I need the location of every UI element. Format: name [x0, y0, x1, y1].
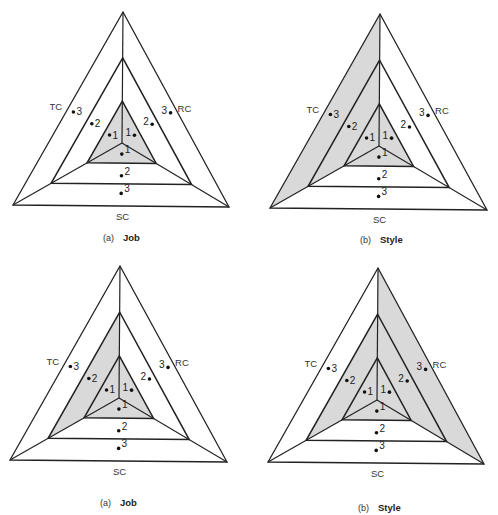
tc-level-dot	[69, 365, 73, 369]
tc-level-dot	[363, 390, 367, 394]
rc-level-number: 3	[419, 107, 425, 118]
sc-level-number: 1	[382, 147, 388, 158]
sc-level-number: 1	[380, 401, 386, 412]
rc-level-dot	[150, 122, 154, 126]
tc-level-dot	[108, 133, 112, 137]
tc-level-number: 2	[352, 121, 358, 132]
tc-axis-label: TC	[306, 104, 319, 115]
rc-level-dot	[390, 136, 394, 140]
tc-level-number: 2	[350, 375, 356, 386]
rc-level-dot	[169, 111, 173, 115]
caption-letter: (b)	[360, 235, 371, 245]
tc-axis-label: TC	[304, 358, 317, 369]
rc-level-number: 3	[162, 105, 168, 116]
rc-level-number: 3	[417, 361, 423, 372]
sc-level-number: 2	[124, 166, 130, 177]
rc-level-dot	[388, 390, 392, 394]
triangle-panel-top-right: 111222333TCRCSC(b)Style	[270, 14, 487, 245]
tc-level-dot	[347, 125, 351, 129]
tc-level-number: 1	[113, 130, 119, 141]
diagram-canvas: 111222333TCRCSC(a)Job111222333TCRCSC(b)S…	[0, 0, 498, 515]
sc-level-number: 3	[379, 440, 385, 451]
sc-axis-label: SC	[371, 468, 384, 479]
tc-level-number: 2	[92, 373, 98, 384]
triangle-panel-bottom-left: 111222333TCRCSC(a)Job	[10, 266, 227, 508]
rc-level-number: 3	[159, 359, 165, 370]
tc-level-number: 2	[95, 118, 101, 129]
triangle-panel-top-left: 111222333TCRCSC(a)Job	[13, 12, 229, 243]
sc-axis-label: SC	[373, 214, 386, 225]
tc-level-number: 1	[110, 384, 116, 395]
sc-level-dot	[374, 449, 378, 453]
tc-axis-label: TC	[46, 356, 59, 367]
caption-title: Style	[378, 502, 401, 513]
sc-level-number: 1	[122, 399, 128, 410]
sc-level-dot	[119, 192, 123, 196]
sc-level-dot	[375, 409, 379, 413]
caption-letter: (b)	[358, 503, 369, 513]
tc-level-number: 3	[331, 363, 337, 374]
caption-letter: (a)	[103, 233, 114, 243]
caption-title: Job	[123, 232, 140, 243]
rc-level-dot	[133, 133, 137, 137]
sc-level-dot	[117, 447, 121, 451]
spoke-line	[13, 143, 122, 205]
sc-level-number: 2	[379, 423, 385, 434]
rc-level-dot	[130, 388, 134, 392]
spoke-line	[122, 143, 229, 207]
rc-level-dot	[166, 366, 170, 370]
sc-level-number: 2	[382, 169, 388, 180]
sc-level-dot	[377, 155, 381, 159]
tc-level-dot	[90, 122, 94, 126]
tc-level-dot	[329, 113, 333, 117]
sc-axis-label: SC	[113, 466, 126, 477]
caption-title: Job	[120, 497, 137, 508]
rc-level-number: 2	[398, 373, 404, 384]
spoke-line	[119, 398, 227, 462]
rc-level-number: 2	[400, 119, 406, 130]
rc-level-number: 1	[383, 130, 389, 141]
sc-level-number: 3	[122, 438, 128, 449]
spoke-line	[10, 398, 119, 460]
tc-axis-label: TC	[49, 101, 62, 112]
sc-level-dot	[120, 174, 124, 178]
triangle-panel-bottom-right: 111222333TCRCSC(b)Style	[268, 268, 484, 513]
rc-level-dot	[148, 377, 152, 381]
tc-level-dot	[72, 110, 76, 114]
tc-level-number: 3	[73, 361, 79, 372]
sc-level-number: 3	[124, 183, 130, 194]
sc-level-dot	[117, 429, 121, 433]
rc-level-dot	[426, 114, 430, 118]
rc-level-number: 1	[123, 382, 129, 393]
rc-axis-label: RC	[433, 359, 447, 370]
sc-axis-label: SC	[116, 211, 129, 222]
sc-level-dot	[377, 177, 381, 181]
rc-level-number: 2	[143, 116, 149, 127]
spoke-line	[379, 146, 487, 210]
rc-level-number: 2	[140, 371, 146, 382]
tc-level-number: 1	[370, 132, 376, 143]
tc-level-dot	[105, 388, 109, 392]
sc-level-dot	[117, 407, 121, 411]
sc-level-dot	[377, 195, 381, 199]
sc-level-dot	[120, 152, 124, 156]
tc-level-number: 3	[333, 109, 339, 120]
rc-axis-label: RC	[178, 103, 192, 114]
spoke-line	[268, 400, 377, 462]
tc-level-number: 1	[368, 386, 374, 397]
rc-level-dot	[405, 379, 409, 383]
tc-level-dot	[87, 377, 91, 381]
rc-level-dot	[424, 368, 428, 372]
rc-level-number: 1	[380, 384, 386, 395]
tc-level-dot	[365, 136, 369, 140]
caption-title: Style	[380, 234, 403, 245]
sc-level-number: 1	[125, 144, 131, 155]
tc-level-number: 3	[76, 106, 82, 117]
sc-level-dot	[375, 431, 379, 435]
tc-level-dot	[327, 367, 331, 371]
rc-axis-label: RC	[175, 357, 189, 368]
sc-level-number: 3	[382, 186, 388, 197]
rc-level-number: 1	[125, 127, 131, 138]
rc-level-dot	[408, 125, 412, 129]
caption-letter: (a)	[100, 498, 111, 508]
